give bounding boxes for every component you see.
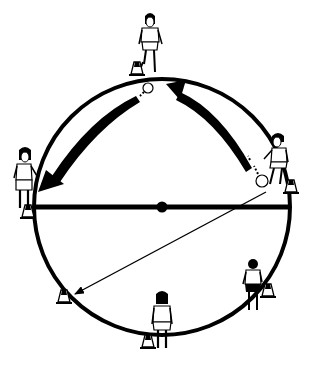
- center-mark: [157, 202, 168, 213]
- cone-bottom: [140, 335, 156, 349]
- ball-top: [143, 83, 153, 93]
- ball-right: [256, 175, 268, 187]
- drill-canvas: [0, 0, 309, 370]
- pass-arrow-right-to-top: [166, 80, 258, 174]
- cone-right: [283, 180, 299, 194]
- player-top: [139, 13, 162, 72]
- drill-diagram: [0, 0, 309, 370]
- player-bottom: [152, 291, 172, 348]
